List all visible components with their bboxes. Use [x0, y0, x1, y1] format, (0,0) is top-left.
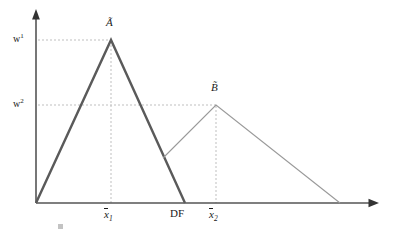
horizontal-axis-arrowhead	[369, 199, 380, 207]
x-tick-x1-base: x	[104, 208, 109, 220]
curve-b-label: B̃	[211, 82, 218, 93]
x-tick-x1: x1	[104, 208, 113, 220]
curve-b-triangle	[163, 105, 340, 203]
curve-a-label-text: Ã	[106, 17, 113, 28]
y-tick-w1-superscript: 1	[20, 32, 24, 40]
curve-a-label: Ã	[106, 17, 113, 28]
figure-root: w1 w2 Ã B̃ x1 DF x2	[0, 0, 394, 234]
plot-canvas	[0, 0, 394, 234]
x-tick-x1-subscript: 1	[109, 214, 113, 223]
y-tick-w1: w1	[13, 34, 24, 44]
guide-lines	[38, 40, 216, 203]
curve-b-label-text: B̃	[211, 82, 218, 93]
x-tick-x2: x2	[209, 208, 218, 220]
x-tick-df-text: DF	[170, 207, 184, 219]
x-tick-df: DF	[170, 208, 184, 219]
y-tick-w2-superscript: 2	[20, 97, 24, 105]
x-tick-x2-subscript: 2	[214, 214, 218, 223]
figure-artifact-mark	[58, 224, 63, 229]
y-tick-w2: w2	[13, 99, 24, 109]
axes-group	[32, 9, 379, 207]
x-tick-x2-base: x	[209, 208, 214, 220]
vertical-axis-arrowhead	[32, 9, 40, 20]
curve-b-path	[163, 105, 340, 203]
